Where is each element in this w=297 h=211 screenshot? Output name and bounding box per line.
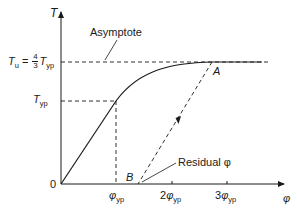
typ-symbol: T — [33, 93, 40, 105]
asymptote-leader — [105, 40, 117, 60]
tu-symbol: T — [8, 55, 15, 67]
unloading-arrow-icon — [176, 116, 182, 124]
plastic-curve — [116, 62, 262, 101]
tick-subscript: yp — [116, 195, 124, 204]
tu-label: Tu = 43Typ — [8, 54, 54, 71]
frac-denominator: 3 — [33, 62, 37, 70]
point-b-label: B — [126, 172, 133, 183]
tick-label-phiyp: φyp — [109, 190, 124, 201]
origin-label: 0 — [50, 179, 56, 190]
frac-numerator: 4 — [33, 53, 37, 61]
tu-equals: = — [22, 55, 28, 67]
point-a-label: A — [213, 66, 220, 77]
asymptote-annotation: Asymptote — [90, 27, 142, 38]
typ-label: Typ — [33, 94, 48, 105]
residual-leader — [142, 163, 176, 182]
tick-subscript: yp — [173, 195, 181, 204]
tu-subscript: u — [15, 61, 19, 70]
tick-label-3phiyp: 3φyp — [215, 190, 236, 201]
tu-fraction: 43 — [32, 53, 38, 70]
tick-subscript: yp — [228, 195, 236, 204]
elastic-line — [61, 101, 116, 184]
y-axis-label: T — [50, 7, 57, 19]
tick-label-2phiyp: 2φyp — [160, 190, 181, 201]
typ-subscript: yp — [40, 99, 48, 108]
x-axis-label: φ — [283, 193, 290, 204]
residual-annotation: Residual φ — [178, 157, 231, 168]
tu-rhs-subscript: yp — [46, 61, 54, 70]
